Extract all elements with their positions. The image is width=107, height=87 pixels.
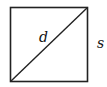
diagonal-line [11, 8, 88, 82]
diagonal-label: d [39, 30, 48, 44]
side-label: s [97, 36, 104, 50]
square-diagram [0, 0, 107, 87]
